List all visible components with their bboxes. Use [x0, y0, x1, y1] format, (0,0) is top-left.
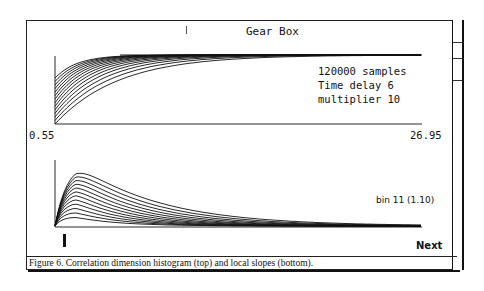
bottom-chart [55, 160, 422, 227]
x-max-label: 26.95 [410, 129, 442, 142]
info-samples: 120000 samples [318, 65, 407, 78]
next-button[interactable]: Next [416, 240, 442, 251]
bin-cursor-handle[interactable] [63, 234, 66, 247]
bottom-chart-curves [55, 173, 421, 226]
bin-label: bin 11 (1.10) [376, 194, 434, 207]
info-multiplier: multiplier 10 [318, 93, 400, 106]
bottom-curve [55, 173, 421, 226]
figure-caption: Figure 6. Correlation dimension histogra… [29, 258, 313, 268]
x-min-label: 0.55 [29, 129, 54, 142]
caption-divider [26, 256, 457, 257]
info-time-delay: Time delay 6 [318, 79, 394, 92]
plots-canvas [0, 0, 484, 291]
